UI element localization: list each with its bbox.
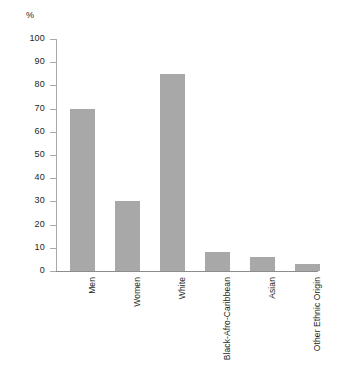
y-axis-tick-mark <box>50 62 56 63</box>
y-axis-tick-mark <box>50 39 56 40</box>
bar <box>70 109 95 271</box>
y-axis-tick-label: 40 <box>35 172 45 183</box>
x-axis-category-label-text: Other Ethnic Origin <box>311 277 321 351</box>
y-axis-tick-mark <box>50 225 56 226</box>
x-axis-category-label-text: Black-Afro-Caribbean <box>221 277 231 360</box>
y-axis-tick-label: 70 <box>35 103 45 114</box>
y-axis-tick-mark <box>50 85 56 86</box>
x-axis-line <box>56 271 318 272</box>
bar <box>115 201 140 271</box>
y-axis-tick-mark <box>50 109 56 110</box>
y-axis-tick-mark <box>50 155 56 156</box>
y-axis-line <box>56 39 57 272</box>
y-axis-tick-mark <box>50 201 56 202</box>
bar <box>160 74 185 271</box>
y-axis-tick-label: 0 <box>40 265 45 276</box>
y-axis-tick-mark <box>50 178 56 179</box>
plot-area: 1009080706050403020100 MenWomenWhiteBlac… <box>0 0 342 382</box>
y-axis-tick-mark <box>50 271 56 272</box>
x-axis-category-label-text: Asian <box>266 277 276 299</box>
y-axis-tick-label: 90 <box>35 56 45 67</box>
y-axis-tick-label: 100 <box>29 33 45 44</box>
bar <box>205 252 230 271</box>
bar-chart: % 1009080706050403020100 MenWomenWhiteBl… <box>0 0 342 382</box>
y-axis-tick-label: 50 <box>35 149 45 160</box>
bar <box>250 257 275 271</box>
y-axis-tick-label: 80 <box>35 79 45 90</box>
x-axis-category-label-text: Men <box>86 277 96 294</box>
y-axis-tick-label: 60 <box>35 126 45 137</box>
bar <box>295 264 320 271</box>
y-axis-tick-mark <box>50 132 56 133</box>
y-axis-tick-label: 20 <box>35 219 45 230</box>
y-axis-tick-mark <box>50 248 56 249</box>
y-axis-tick-label: 30 <box>35 195 45 206</box>
x-axis-category-label-text: Women <box>131 277 141 307</box>
y-axis-tick-label: 10 <box>35 242 45 253</box>
x-axis-category-label-text: White <box>176 277 186 299</box>
